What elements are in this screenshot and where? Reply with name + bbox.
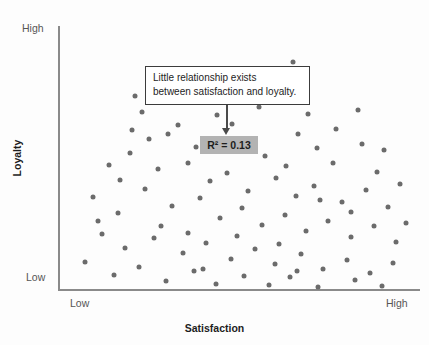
scatter-point: [290, 59, 295, 64]
scatter-chart: High Low Low High Satisfaction Loyalty L…: [0, 0, 429, 345]
scatter-point: [107, 163, 112, 168]
scatter-point: [191, 268, 196, 273]
scatter-point: [293, 194, 298, 199]
scatter-point: [159, 224, 164, 229]
scatter-point: [356, 107, 361, 112]
scatter-point: [364, 187, 369, 192]
scatter-point: [215, 112, 220, 117]
y-axis-tick-low: Low: [26, 271, 45, 283]
scatter-point: [272, 262, 277, 267]
scatter-point: [218, 215, 223, 220]
scatter-point: [118, 177, 123, 182]
scatter-point: [386, 205, 391, 210]
scatter-point: [225, 171, 230, 176]
scatter-point: [239, 205, 244, 210]
r-squared-label: R² = 0.13: [207, 139, 250, 151]
scatter-point: [284, 163, 289, 168]
scatter-point: [130, 128, 135, 133]
scatter-point: [282, 213, 287, 218]
scatter-point: [296, 131, 301, 136]
scatter-point: [235, 233, 240, 238]
scatter-point: [128, 150, 133, 155]
scatter-point: [403, 220, 408, 225]
scatter-point: [155, 167, 160, 172]
scatter-point: [139, 110, 144, 115]
scatter-point: [256, 105, 261, 110]
callout-annotation-box: Little relationship exists between satis…: [145, 66, 310, 105]
r-squared-badge: R² = 0.13: [200, 136, 258, 154]
scatter-point: [260, 223, 265, 228]
scatter-point: [303, 229, 308, 234]
x-axis-tick-low: Low: [70, 297, 89, 309]
callout-arrowhead-icon: [222, 128, 230, 135]
scatter-point: [320, 266, 325, 271]
scatter-point: [100, 232, 105, 237]
scatter-point: [180, 251, 185, 256]
scatter-point: [133, 93, 138, 98]
scatter-point: [246, 189, 251, 194]
scatter-point: [344, 257, 349, 262]
scatter-point: [340, 200, 345, 205]
scatter-point: [228, 257, 233, 262]
scatter-point: [316, 285, 321, 290]
scatter-point: [331, 161, 336, 166]
scatter-point: [379, 284, 384, 289]
scatter-point: [263, 153, 268, 158]
scatter-point: [122, 246, 127, 251]
scatter-point: [200, 266, 205, 271]
scatter-point: [241, 274, 246, 279]
scatter-point: [294, 268, 299, 273]
scatter-point: [204, 241, 209, 246]
scatter-point: [175, 123, 180, 128]
scatter-point: [112, 272, 117, 277]
scatter-point: [137, 265, 142, 270]
scatter-point: [381, 148, 386, 153]
scatter-point: [116, 210, 121, 215]
scatter-point: [230, 121, 235, 126]
callout-line-1: Little relationship exists: [153, 71, 302, 85]
scatter-point: [334, 126, 339, 131]
scatter-point: [166, 131, 171, 136]
scatter-point: [252, 247, 257, 252]
scatter-point: [91, 195, 96, 200]
scatter-point: [390, 261, 395, 266]
scatter-point: [326, 219, 331, 224]
scatter-point: [372, 224, 377, 229]
scatter-point: [197, 196, 202, 201]
scatter-point: [349, 210, 354, 215]
y-axis-tick-high: High: [22, 22, 44, 34]
scatter-point: [185, 161, 190, 166]
scatter-point: [398, 181, 403, 186]
scatter-point: [374, 169, 379, 174]
scatter-point: [298, 252, 303, 257]
scatter-point: [348, 234, 353, 239]
scatter-point: [368, 271, 373, 276]
scatter-point: [266, 282, 271, 287]
scatter-point: [360, 142, 365, 147]
scatter-point: [95, 219, 100, 224]
x-axis-title: Satisfaction: [0, 322, 429, 334]
scatter-point: [163, 279, 168, 284]
scatter-point: [318, 197, 323, 202]
scatter-point: [312, 183, 317, 188]
scatter-point: [208, 178, 213, 183]
scatter-point: [193, 144, 198, 149]
scatter-point: [288, 275, 293, 280]
scatter-point: [170, 204, 175, 209]
y-axis-title: Loyalty: [11, 128, 23, 188]
scatter-point: [352, 277, 357, 282]
scatter-point: [314, 145, 319, 150]
scatter-point: [186, 230, 191, 235]
scatter-point: [83, 260, 88, 265]
scatter-point: [394, 239, 399, 244]
scatter-point: [213, 281, 218, 286]
scatter-point: [305, 111, 310, 116]
callout-line-2: between satisfaction and loyalty.: [153, 85, 302, 99]
callout-arrow-icon: [226, 105, 228, 130]
scatter-point: [142, 186, 147, 191]
scatter-point: [273, 176, 278, 181]
scatter-point: [276, 242, 281, 247]
scatter-point: [146, 136, 151, 141]
scatter-point: [151, 235, 156, 240]
x-axis-tick-high: High: [386, 297, 408, 309]
